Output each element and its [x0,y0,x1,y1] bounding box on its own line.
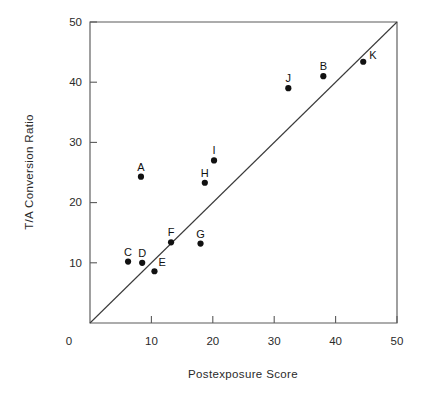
y-tick-label-30: 30 [69,136,82,148]
x-tick-label-0: 0 [66,335,72,347]
point-label-K: K [369,49,377,61]
x-tick-label-20: 20 [206,335,219,347]
data-point-K [360,59,366,65]
data-point-group-B: B [320,60,327,79]
data-point-J [285,85,291,91]
x-tick-label-40: 40 [329,335,342,347]
y-tick-label-20: 20 [69,196,82,208]
data-point-E [151,268,157,274]
point-label-A: A [137,161,145,173]
point-label-D: D [138,247,146,259]
data-point-B [320,73,326,79]
scatter-plot-figure: 10 20 30 40 50 0 10 20 30 40 50 ABCDEFGH… [0,0,429,400]
x-axis-title: Postexposure Score [188,368,298,380]
data-point-group-D: D [138,247,146,266]
data-point-A [138,174,144,180]
y-axis-title: T/A Conversion Ratio [23,114,35,230]
point-label-B: B [320,60,327,72]
data-point-D [139,260,145,266]
point-label-H: H [201,167,209,179]
point-label-G: G [196,228,205,240]
point-label-I: I [212,144,215,156]
y-tick-label-10: 10 [69,257,82,269]
x-tick-label-50: 50 [391,335,404,347]
data-point-group-G: G [196,228,205,247]
point-label-F: F [168,226,175,238]
y-tick-label-40: 40 [69,76,82,88]
point-label-E: E [158,256,165,268]
data-point-group-H: H [201,167,209,186]
x-tick-label-30: 30 [268,335,281,347]
data-point-group-J: J [285,72,291,91]
point-label-J: J [286,72,292,84]
x-tick-label-10: 10 [145,335,158,347]
data-point-H [202,180,208,186]
data-point-group-C: C [124,246,132,265]
y-tick-label-50: 50 [69,16,82,28]
data-point-I [211,157,217,163]
data-point-C [125,259,131,265]
data-point-group-F: F [168,226,175,245]
point-label-C: C [124,246,132,258]
data-point-G [197,240,203,246]
data-point-F [168,239,174,245]
